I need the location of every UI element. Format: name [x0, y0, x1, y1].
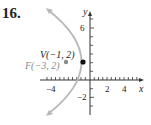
- x-axis-label: x: [138, 83, 144, 94]
- vertex-point: [80, 59, 85, 64]
- tick-label-neg4: −4: [46, 84, 56, 94]
- parabola-graph: V(−1, 2) F(−3, 2) y x 6 −2 −4 2 4: [0, 0, 151, 125]
- tick-label-4: 4: [122, 84, 127, 94]
- tick-label-2: 2: [105, 84, 110, 94]
- x-axis: [40, 77, 144, 82]
- tick-label-neg2: −2: [77, 92, 87, 102]
- focus-label: F(−3, 2): [24, 60, 60, 72]
- focus-point: [64, 60, 68, 64]
- y-axis: [88, 11, 94, 115]
- tick-label-6: 6: [80, 23, 85, 33]
- y-axis-label: y: [82, 6, 88, 17]
